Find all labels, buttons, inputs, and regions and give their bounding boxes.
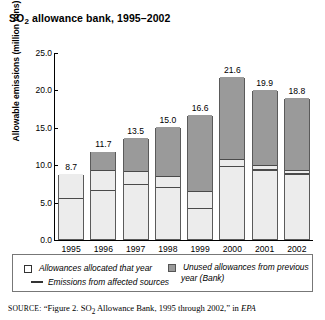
- legend-item-allocated: Allowances allocated that year: [24, 263, 152, 273]
- emissions-marker-1998: [156, 187, 180, 189]
- bar-segment-divider-2001: [253, 165, 277, 166]
- bar-group-1997[interactable]: [123, 53, 149, 240]
- x-tick-label-1999: 1999: [191, 244, 210, 254]
- x-tick-label-1995: 1995: [62, 244, 81, 254]
- bar-segment-divider-1996: [91, 170, 115, 171]
- y-tick-mark-10.0: [54, 165, 58, 166]
- legend-swatch-bank-icon: [168, 264, 176, 272]
- legend-label-allocated: Allowances allocated that year: [39, 263, 152, 273]
- legend-label-bank-line1: Unused allowances from previous: [183, 262, 309, 272]
- bar-group-1999[interactable]: [187, 53, 213, 240]
- emissions-marker-1995: [59, 198, 83, 200]
- bar-value-label-1997: 13.5: [127, 126, 144, 136]
- legend-item-emissions: Emissions from affected sources: [31, 277, 169, 287]
- bar-segment-allocated-2000: [220, 160, 244, 239]
- x-axis-line: [54, 240, 313, 241]
- legend-label-bank-line2: year (Bank): [181, 273, 224, 283]
- y-tick-label-5.0: 5.0: [40, 198, 52, 208]
- bar-2002[interactable]: [284, 99, 310, 240]
- bar-value-label-1995: 8.7: [65, 162, 77, 172]
- bar-segment-allocated-1995: [59, 174, 83, 239]
- y-tick-mark-25.0: [54, 53, 58, 54]
- y-tick-label-25.0: 25.0: [35, 48, 52, 58]
- emissions-marker-1996: [91, 190, 115, 192]
- y-tick-mark-15.0: [54, 128, 58, 129]
- emissions-marker-1999: [188, 208, 212, 210]
- legend-swatch-allocated-icon: [24, 265, 32, 273]
- emissions-marker-2002: [285, 173, 309, 175]
- source-label: SOURCE:: [8, 304, 41, 313]
- bar-1997[interactable]: [123, 139, 149, 240]
- bar-segment-divider-2002: [285, 170, 309, 171]
- bar-segment-divider-2000: [220, 159, 244, 160]
- bar-1996[interactable]: [90, 152, 116, 240]
- bar-value-label-2002: 18.8: [289, 86, 306, 96]
- bar-segment-bank-1997: [124, 138, 148, 172]
- bar-2001[interactable]: [252, 91, 278, 240]
- bar-segment-allocated-2001: [253, 166, 277, 239]
- bar-value-label-2001: 19.9: [256, 78, 273, 88]
- bar-segment-allocated-1999: [188, 192, 212, 239]
- bar-1995[interactable]: [58, 175, 84, 240]
- x-tick-label-1997: 1997: [126, 244, 145, 254]
- bar-segment-divider-1999: [188, 191, 212, 192]
- bar-segment-allocated-2002: [285, 171, 309, 239]
- x-tick-label-2001: 2001: [255, 244, 274, 254]
- bar-group-2002[interactable]: [284, 53, 310, 240]
- y-tick-mark-5.0: [54, 203, 58, 204]
- bar-segment-allocated-1996: [91, 171, 115, 239]
- bar-segment-bank-2000: [220, 77, 244, 160]
- source-italic: EPA: [241, 303, 256, 313]
- bar-segment-allocated-1997: [124, 172, 148, 239]
- chart-legend: Allowances allocated that year Unused al…: [12, 254, 313, 292]
- bar-segment-bank-1998: [156, 127, 180, 177]
- bar-2000[interactable]: [219, 78, 245, 240]
- y-tick-mark-20.0: [54, 90, 58, 91]
- bar-segment-bank-2001: [253, 90, 277, 166]
- bar-1999[interactable]: [187, 116, 213, 240]
- emissions-marker-1997: [124, 184, 148, 186]
- y-tick-label-10.0: 10.0: [35, 160, 52, 170]
- bar-value-label-1998: 15.0: [160, 115, 177, 125]
- bar-segment-divider-1997: [124, 171, 148, 172]
- bar-group-1995[interactable]: [58, 53, 84, 240]
- source-note: SOURCE: “Figure 2. SO2 Allowance Bank, 1…: [8, 303, 323, 318]
- legend-item-bank: Unused allowances from previous year (Ba…: [168, 262, 309, 284]
- plot-area: 8.711.713.515.016.621.619.918.8: [55, 53, 313, 240]
- source-text-before: “Figure 2. SO: [41, 303, 91, 313]
- bar-group-1998[interactable]: [155, 53, 181, 240]
- bar-segment-divider-1998: [156, 176, 180, 177]
- bar-1998[interactable]: [155, 128, 181, 240]
- x-tick-label-2000: 2000: [223, 244, 242, 254]
- legend-label-emissions: Emissions from affected sources: [48, 277, 169, 287]
- y-tick-label-0.0: 0.0: [40, 235, 52, 245]
- bar-value-label-2000: 21.6: [224, 65, 241, 75]
- y-tick-label-20.0: 20.0: [35, 85, 52, 95]
- bar-segment-bank-2002: [285, 98, 309, 171]
- bar-value-label-1996: 11.7: [95, 139, 111, 149]
- bar-group-2000[interactable]: [219, 53, 245, 240]
- emissions-marker-2001: [253, 169, 277, 171]
- x-tick-label-1996: 1996: [94, 244, 113, 254]
- y-tick-label-15.0: 15.0: [35, 123, 52, 133]
- emissions-marker-2000: [220, 166, 244, 168]
- legend-swatch-emissions-line-icon: [31, 281, 43, 284]
- x-tick-label-2002: 2002: [287, 244, 306, 254]
- x-tick-label-1998: 1998: [158, 244, 177, 254]
- y-tick-mark-0.0: [54, 240, 58, 241]
- bar-value-label-1999: 16.6: [192, 103, 209, 113]
- bar-segment-bank-1996: [91, 152, 115, 171]
- source-text-mid: Allowance Bank, 1995 through 2002,” in: [95, 303, 241, 313]
- figure-so2-allowance-bank: SO2 allowance bank, 1995–2002 Allowable …: [0, 0, 325, 320]
- bar-segment-bank-1999: [188, 115, 212, 192]
